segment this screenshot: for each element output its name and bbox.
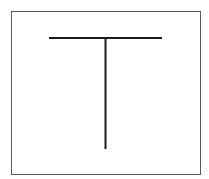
t-shape-diagram (0, 0, 209, 179)
